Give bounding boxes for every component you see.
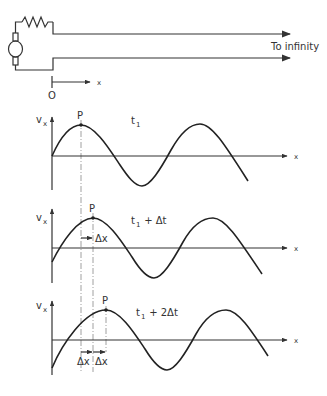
svg-text:x: x xyxy=(294,337,298,345)
time-label: t 1 + Δt xyxy=(131,215,167,229)
time-label: t 1 + 2Δt xyxy=(136,307,178,321)
graph-t1: v x x P t 1 xyxy=(36,110,298,190)
shift-label: Δx xyxy=(95,233,108,244)
svg-text:v: v xyxy=(36,300,42,311)
circuit-axis-label: x xyxy=(97,79,101,87)
svg-text:P: P xyxy=(102,295,108,306)
svg-text:t: t xyxy=(131,215,135,226)
graph-t1-plus-dt: v x x P Δx t 1 + Δt xyxy=(36,203,298,283)
y-axis-label: v xyxy=(36,114,42,125)
svg-text:t: t xyxy=(131,115,135,126)
to-infinity-label: To infinity xyxy=(270,41,319,52)
svg-text:v: v xyxy=(36,212,42,223)
resistor-icon xyxy=(22,17,53,27)
wave-propagation-diagram: To infinity x O v x x P t 1 v x x P Δx xyxy=(0,0,327,396)
svg-text:x: x xyxy=(43,120,47,128)
svg-text:P: P xyxy=(89,203,95,214)
generator-icon xyxy=(9,33,23,65)
x-axis-label: x xyxy=(294,153,298,161)
point-p-marker xyxy=(104,308,108,312)
svg-text:+ Δt: + Δt xyxy=(141,215,167,226)
shift-label-2: Δx xyxy=(95,356,108,367)
svg-text:1: 1 xyxy=(136,221,140,229)
svg-text:x: x xyxy=(43,306,47,314)
svg-text:1: 1 xyxy=(136,121,140,129)
point-p-marker xyxy=(91,216,95,220)
graph-t1-plus-2dt: v x x P Δx Δx t 1 + 2Δt xyxy=(36,295,298,375)
time-label: t 1 xyxy=(131,115,140,129)
svg-text:t: t xyxy=(136,307,140,318)
svg-text:x: x xyxy=(43,218,47,226)
point-label: P xyxy=(77,110,83,121)
circuit: To infinity x O xyxy=(9,17,320,101)
svg-text:1: 1 xyxy=(141,313,145,321)
shift-label-1: Δx xyxy=(77,356,90,367)
svg-text:+ 2Δt: + 2Δt xyxy=(146,307,178,318)
svg-text:x: x xyxy=(294,245,298,253)
point-p-marker xyxy=(79,123,83,127)
origin-label: O xyxy=(48,90,56,101)
